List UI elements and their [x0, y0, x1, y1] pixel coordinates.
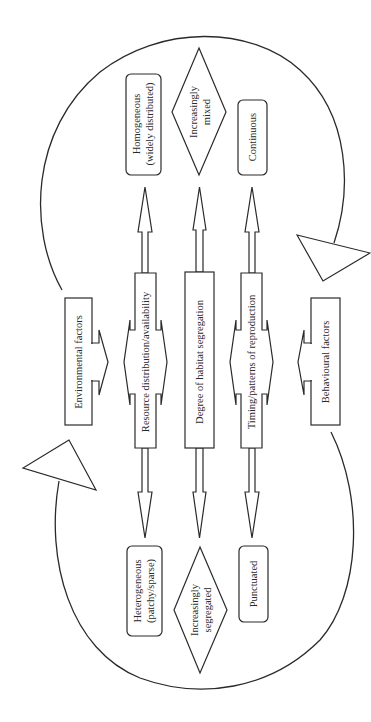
- continuous-node: Continuous: [238, 100, 267, 175]
- continuous-label: Continuous: [247, 113, 258, 161]
- homogeneous-node: Homogeneous (widely distributed): [126, 74, 161, 175]
- heterogeneous-label-line1: Heterogeneous: [132, 560, 143, 623]
- homogeneous-label-line1: Homogeneous: [131, 94, 142, 155]
- punctuated-node: Punctuated: [239, 546, 268, 622]
- reproduction-timing-label: Timing/patterns of reproduction: [246, 294, 257, 429]
- punctuated-label: Punctuated: [248, 560, 259, 607]
- increasingly-segregated-line2: segregated: [202, 587, 213, 633]
- reproduction-timing-axis: Timing/patterns of reproduction: [230, 187, 273, 538]
- habitat-segregation-label: Degree of habitat segregation: [194, 299, 205, 424]
- habitat-segregation-axis: Degree of habitat segregation: [185, 187, 214, 538]
- increasingly-segregated-node: Increasingly segregated: [174, 547, 227, 673]
- increasingly-mixed-line1: Increasingly: [188, 85, 199, 138]
- behavioural-factors-label: Behavioural factors: [320, 321, 331, 404]
- increasingly-mixed-node: Increasingly mixed: [172, 48, 226, 175]
- heterogeneous-node: Heterogeneous (patchy/sparse): [127, 546, 162, 636]
- homogeneous-label-line2: (widely distributed): [144, 82, 156, 166]
- diagram-canvas: Environmental factors Behavioural factor…: [0, 0, 371, 722]
- environmental-factors-label: Environmental factors: [73, 315, 84, 409]
- left-loop-arrowhead-icon: [23, 440, 96, 490]
- right-loop-arrowhead-icon: [297, 235, 370, 281]
- resource-distribution-axis: Resource distribution/availability: [124, 187, 167, 538]
- increasingly-segregated-line1: Increasingly: [189, 583, 200, 636]
- heterogeneous-label-line2: (patchy/sparse): [145, 558, 157, 623]
- environmental-factors-node: Environmental factors: [65, 298, 108, 425]
- increasingly-mixed-line2: mixed: [201, 98, 212, 125]
- resource-distribution-label: Resource distribution/availability: [140, 291, 151, 432]
- behavioural-factors-node: Behavioural factors: [298, 298, 340, 425]
